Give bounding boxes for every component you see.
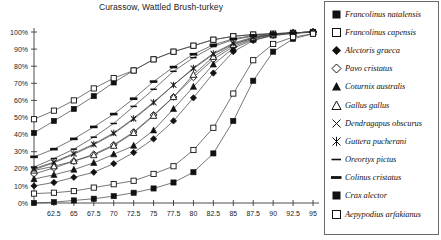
marker-filled-diamond: [130, 149, 136, 155]
legend-item-label: Alectoris graeca: [345, 46, 400, 55]
marker-filled-square: [71, 198, 76, 203]
marker-filled-diamond: [91, 169, 97, 175]
marker-open-square: [211, 37, 216, 42]
x-tick-label: 72.5: [127, 210, 141, 217]
legend-marker-filled-diamond-icon: [330, 44, 343, 57]
legend-marker-x-cross-icon: [330, 117, 343, 130]
legend-item[interactable]: Crax alector: [325, 187, 438, 205]
legend-item[interactable]: Colinus cristatus: [325, 169, 438, 187]
marker-filled-square: [51, 118, 56, 123]
marker-filled-square: [211, 151, 216, 156]
chart-page: Curassow, Wattled Brush-turkey 0%10%20%3…: [0, 0, 441, 240]
marker-open-square: [91, 185, 96, 190]
marker-open-square: [71, 98, 76, 103]
legend-item-label: Coturnix australis: [345, 82, 405, 91]
legend-item-label: Francolinus natalensis: [345, 10, 421, 19]
y-tick-label: 10%: [14, 183, 28, 190]
legend-item-label: Francolinus capensis: [345, 28, 416, 37]
marker-filled-diamond: [71, 174, 77, 180]
marker-filled-square: [31, 130, 36, 135]
y-tick-label: 80%: [14, 63, 28, 70]
legend-marker-filled-square-icon: [330, 8, 343, 21]
marker-filled-diamond: [111, 160, 117, 166]
y-tick-label: 90%: [14, 46, 28, 53]
marker-open-square: [111, 182, 116, 187]
marker-filled-triangle: [131, 142, 137, 148]
marker-open-square: [310, 31, 315, 36]
marker-filled-square: [71, 106, 76, 111]
x-tick-label: 82.5: [207, 210, 221, 217]
legend-item-label: Colinus cristatus: [345, 173, 401, 182]
legend-item[interactable]: Oreortyx pictus: [325, 151, 438, 169]
x-tick-label: 90: [269, 210, 277, 217]
y-tick-label: 20%: [14, 165, 28, 172]
marker-open-square: [251, 58, 256, 63]
legend-marker-open-diamond-icon: [330, 62, 343, 75]
legend-item[interactable]: Coturnix australis: [325, 78, 438, 96]
legend-item[interactable]: Pavo cristatus: [325, 60, 438, 78]
legend-item[interactable]: Francolinus natalensis: [325, 5, 438, 23]
marker-filled-triangle: [210, 61, 216, 67]
legend-item[interactable]: Alectoris graeca: [325, 41, 438, 59]
legend-marker-thick-dash-icon: [330, 171, 343, 184]
x-tick-label: 65: [70, 210, 78, 217]
y-tick-label: 30%: [14, 148, 28, 155]
legend-marker-open-square-icon: [330, 26, 343, 39]
y-tick-label: 0%: [18, 200, 28, 207]
marker-filled-square: [131, 190, 136, 195]
marker-open-square: [71, 188, 76, 193]
marker-open-square: [31, 191, 36, 196]
marker-open-square: [131, 68, 136, 73]
marker-filled-triangle: [91, 159, 97, 165]
legend-item-label: Guttera pucherani: [345, 137, 406, 146]
x-tick-label: 80: [190, 210, 198, 217]
marker-open-square: [111, 76, 116, 81]
marker-open-square: [91, 86, 96, 91]
legend-item-label: Gallus gallus: [345, 101, 389, 110]
marker-filled-square: [111, 194, 116, 199]
x-tick-label: 85: [229, 210, 237, 217]
legend-marker-asterisk-icon: [330, 135, 343, 148]
legend-item[interactable]: Francolinus capensis: [325, 23, 438, 41]
marker-filled-diamond: [31, 183, 37, 189]
marker-open-square: [211, 125, 216, 130]
y-tick-label: 50%: [14, 114, 28, 121]
x-tick-label: 75: [150, 210, 158, 217]
marker-filled-square: [151, 186, 156, 191]
y-tick-label: 40%: [14, 131, 28, 138]
legend-marker-open-triangle-icon: [330, 99, 343, 112]
chart-legend: Francolinus natalensisFrancolinus capens…: [324, 1, 439, 235]
x-tick-label: 67.5: [87, 210, 101, 217]
marker-open-square: [171, 49, 176, 54]
marker-filled-triangle: [111, 151, 117, 157]
marker-open-square: [271, 41, 276, 46]
legend-item[interactable]: Aepypodius arfakianus: [325, 205, 438, 223]
marker-filled-square: [31, 200, 36, 205]
marker-filled-square: [251, 78, 256, 83]
marker-filled-square: [231, 118, 236, 123]
marker-open-triangle: [190, 71, 196, 77]
marker-filled-square: [91, 196, 96, 201]
x-tick-label: 95: [309, 210, 317, 217]
x-tick-label: 62.5: [47, 210, 61, 217]
x-tick-label: 70: [110, 210, 118, 217]
marker-open-square: [290, 35, 295, 40]
x-tick-label: 87.5: [246, 210, 260, 217]
legend-marker-open-square-icon: [330, 208, 343, 221]
legend-item-label: Aepypodius arfakianus: [345, 210, 421, 219]
y-tick-label: 100%: [10, 29, 28, 36]
marker-open-square: [51, 190, 56, 195]
marker-open-square: [51, 108, 56, 113]
marker-open-square: [151, 171, 156, 176]
legend-item-label: Crax alector: [345, 191, 387, 200]
legend-item[interactable]: Dendragapus obscurus: [325, 114, 438, 132]
x-tick-label: 77.5: [167, 210, 181, 217]
legend-item[interactable]: Gallus gallus: [325, 96, 438, 114]
marker-filled-square: [271, 49, 276, 54]
marker-filled-square: [191, 170, 196, 175]
legend-item-label: Dendragapus obscurus: [345, 119, 422, 128]
marker-filled-diamond: [51, 179, 57, 185]
marker-open-square: [131, 178, 136, 183]
legend-item[interactable]: Guttera pucherani: [325, 132, 438, 150]
legend-marker-thin-dash-icon: [330, 153, 343, 166]
